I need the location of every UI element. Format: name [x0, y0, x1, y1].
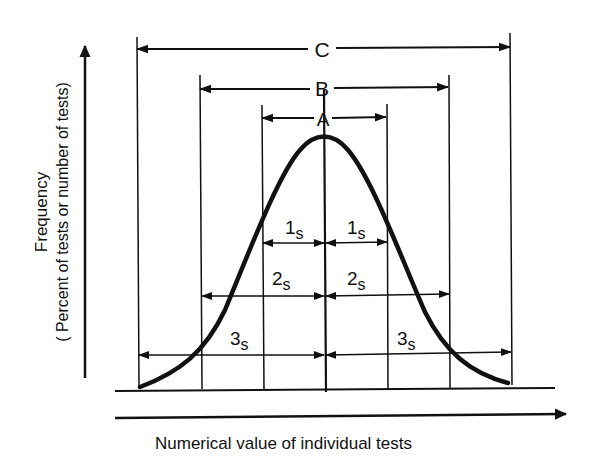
y-axis-label: Frequency [32, 171, 51, 252]
x-axis-arrow [115, 414, 566, 418]
range-a-label: A [317, 109, 330, 130]
two-s-left-label: 2s [272, 268, 291, 293]
three-s-right-label: 3s [397, 328, 416, 353]
two-s-right-label: 2s [347, 268, 366, 293]
three-s-left-label: 3s [230, 328, 249, 353]
y-axis-sublabel: ( Percent of tests or number of tests) [54, 82, 71, 342]
range-c-label: C [314, 38, 329, 61]
one-s-left-label: 1s [285, 217, 304, 242]
one-s-right-label: 1s [347, 217, 366, 242]
baseline [115, 388, 555, 391]
x-axis-label: Numerical value of individual tests [155, 434, 412, 453]
range-b-label: B [315, 77, 329, 100]
normal-distribution-diagram: Frequency ( Percent of tests or number o… [0, 0, 589, 469]
